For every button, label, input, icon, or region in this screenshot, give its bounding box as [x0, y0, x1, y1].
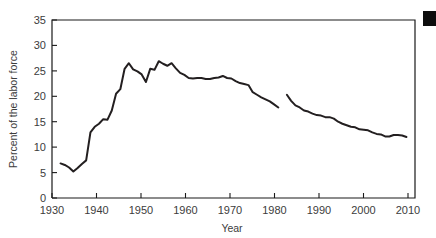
y-tick-label-20: 20 — [34, 90, 46, 102]
x-axis-ticks — [52, 193, 408, 198]
data-series-group — [61, 61, 407, 171]
data-line-segment-1 — [61, 61, 279, 171]
y-axis-title: Percent of the labor force — [7, 50, 19, 168]
y-tick-label-5: 5 — [40, 167, 46, 179]
x-axis-tick-labels: 1930 1940 1950 1960 1970 1980 1990 2000 … — [40, 204, 420, 216]
y-tick-label-10: 10 — [34, 141, 46, 153]
x-tick-label-1980: 1980 — [262, 204, 286, 216]
y-axis-ticks — [52, 20, 57, 198]
chart-figure: 0 5 10 15 20 25 30 35 1930 1940 1950 19 — [0, 0, 436, 238]
y-tick-label-35: 35 — [34, 14, 46, 26]
x-tick-label-1990: 1990 — [307, 204, 331, 216]
x-tick-label-1940: 1940 — [84, 204, 108, 216]
line-chart: 0 5 10 15 20 25 30 35 1930 1940 1950 19 — [0, 0, 436, 238]
x-tick-label-1930: 1930 — [40, 204, 64, 216]
x-tick-label-1960: 1960 — [173, 204, 197, 216]
y-tick-label-0: 0 — [40, 192, 46, 204]
y-tick-label-25: 25 — [34, 65, 46, 77]
data-line-segment-2 — [287, 95, 407, 137]
x-tick-label-2010: 2010 — [396, 204, 420, 216]
x-axis-title: Year — [221, 222, 243, 234]
page-corner-mark — [423, 11, 436, 26]
plot-frame — [52, 20, 415, 198]
y-tick-label-15: 15 — [34, 116, 46, 128]
x-tick-label-1970: 1970 — [218, 204, 242, 216]
x-tick-label-1950: 1950 — [129, 204, 153, 216]
y-axis-tick-labels: 0 5 10 15 20 25 30 35 — [34, 14, 46, 204]
x-tick-label-2000: 2000 — [351, 204, 375, 216]
y-tick-label-30: 30 — [34, 39, 46, 51]
